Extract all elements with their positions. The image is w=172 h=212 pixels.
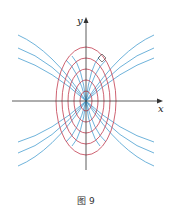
y-axis-label: y [77,16,83,26]
figure-caption: 图 9 [0,194,172,207]
y-axis-arrow-icon [84,17,89,23]
x-axis-label: x [158,104,164,114]
orthogonal-trajectories-figure: y x 图 9 [0,0,172,212]
diagram-canvas [0,0,172,212]
